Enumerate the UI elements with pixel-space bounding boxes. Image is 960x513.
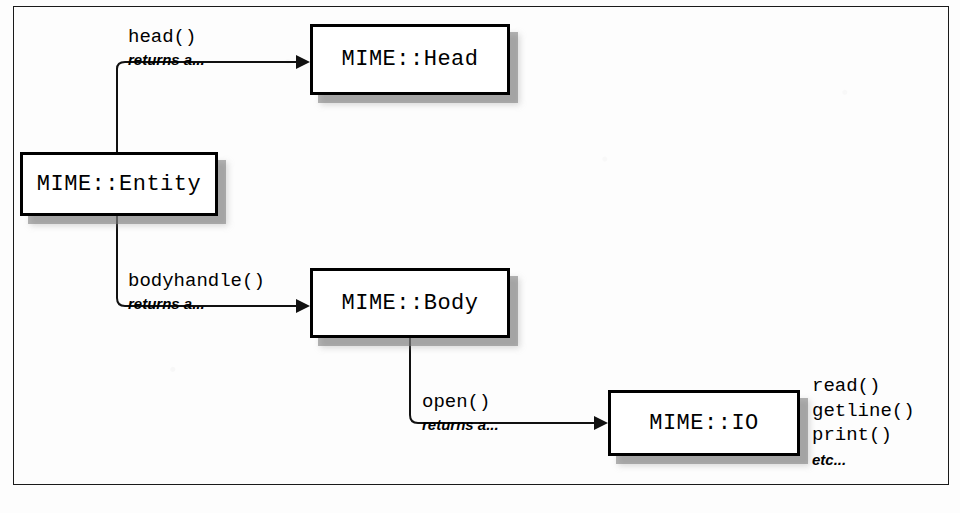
class-box-label: MIME::Entity — [37, 172, 201, 197]
edge-call-text: open() — [422, 393, 499, 413]
figure-canvas: MIME::Entity MIME::Head MIME::Body MIME:… — [0, 0, 960, 513]
class-box-label: MIME::Body — [341, 291, 478, 316]
class-box-label: MIME::Head — [341, 47, 478, 72]
io-method-list: read() getline() print() etc... — [812, 374, 915, 470]
io-method-etc: etc... — [812, 450, 915, 470]
class-box-mime-io[interactable]: MIME::IO — [608, 390, 800, 456]
edge-label-open: open() returns a... — [422, 393, 499, 433]
edge-call-text: bodyhandle() — [128, 272, 265, 292]
edge-returns-text: returns a... — [128, 295, 265, 312]
class-box-label: MIME::IO — [649, 411, 759, 436]
io-method-print: print() — [812, 423, 915, 448]
io-method-getline: getline() — [812, 399, 915, 424]
edge-returns-text: returns a... — [128, 51, 205, 68]
edge-label-bodyhandle: bodyhandle() returns a... — [128, 272, 265, 312]
edge-returns-text: returns a... — [422, 416, 499, 433]
edge-label-head: head() returns a... — [128, 28, 205, 68]
class-box-mime-head[interactable]: MIME::Head — [310, 24, 510, 95]
edge-call-text: head() — [128, 28, 205, 48]
class-box-mime-body[interactable]: MIME::Body — [310, 268, 510, 338]
io-method-read: read() — [812, 374, 915, 399]
class-box-mime-entity[interactable]: MIME::Entity — [20, 152, 218, 216]
